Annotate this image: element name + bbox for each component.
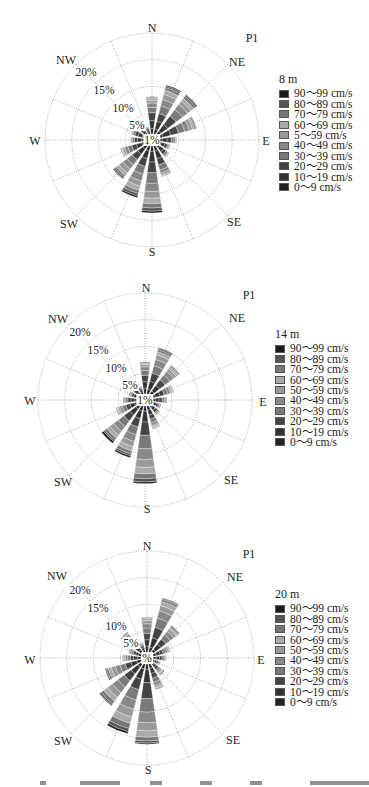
center-label: 1% xyxy=(143,134,160,146)
legend-swatch xyxy=(275,615,285,623)
compass-label-n: N xyxy=(143,539,152,554)
ring-label-10: 10% xyxy=(111,102,134,114)
compass-label-ne: NE xyxy=(229,55,245,70)
compass-label-n: N xyxy=(148,21,157,36)
compass-label-sw: SW xyxy=(54,734,72,749)
compass-label-se: SE xyxy=(224,473,238,488)
compass-label-nw: NW xyxy=(48,312,68,327)
legend-swatch xyxy=(279,110,289,118)
legend-swatch xyxy=(275,428,285,436)
station-label: P1 xyxy=(243,547,256,562)
legend-swatch xyxy=(275,646,285,654)
ring-label-5: 5% xyxy=(121,379,138,391)
legend-swatch xyxy=(279,100,289,108)
compass-label-se: SE xyxy=(227,215,241,230)
ring-label-10: 10% xyxy=(104,362,127,374)
rose-panel-20m: N NE E SE S SW W NW 20% 15% 10% 5% % P1 … xyxy=(0,530,369,778)
ring-label-5: 5% xyxy=(122,637,139,649)
legend-swatch xyxy=(275,667,285,675)
compass-label-se: SE xyxy=(226,733,240,748)
grid-spoke xyxy=(151,402,244,441)
legend-swatch xyxy=(275,657,285,665)
legend-swatch xyxy=(279,173,289,181)
ring-label-10: 10% xyxy=(104,620,127,632)
legend-swatch xyxy=(279,131,289,139)
ring-label-20: 20% xyxy=(74,66,97,78)
compass-label-sw: SW xyxy=(60,217,78,232)
compass-label-e: E xyxy=(262,134,269,149)
center-label: % xyxy=(141,652,153,664)
legend-swatch xyxy=(275,417,285,425)
legend-title: 20 m xyxy=(275,589,349,600)
legend-label: 0～9 cm/s xyxy=(290,437,337,448)
compass-label-sw: SW xyxy=(54,475,72,490)
legend-item: 0～9 cm/s xyxy=(275,437,349,447)
legend-swatch xyxy=(279,162,289,170)
legend-swatch xyxy=(275,407,285,415)
grid-spoke xyxy=(153,660,246,699)
legend-swatch xyxy=(279,183,289,191)
legend-title: 14 m xyxy=(275,329,349,340)
legend-swatch xyxy=(279,90,289,98)
compass-label-e: E xyxy=(259,395,266,410)
legend-label: 0～9 cm/s xyxy=(290,697,337,708)
legend-swatch xyxy=(279,121,289,129)
compass-label-s: S xyxy=(149,245,156,260)
compass-label-ne: NE xyxy=(229,311,245,326)
compass-label-nw: NW xyxy=(47,569,67,584)
legend-swatch xyxy=(275,698,285,706)
station-label: P1 xyxy=(243,288,256,303)
legend-swatch xyxy=(275,345,285,353)
legend-swatch xyxy=(275,688,285,696)
ring-label-15: 15% xyxy=(92,84,115,96)
legend-swatch xyxy=(275,636,285,644)
grid-spoke xyxy=(158,142,251,181)
compass-label-w: W xyxy=(29,134,40,149)
compass-label-nw: NW xyxy=(56,53,76,68)
legend-swatch xyxy=(279,152,289,160)
legend-swatch xyxy=(275,438,285,446)
rose-panel-14m: N NE E SE S SW W NW 20% 15% 10% 5% 1% P1… xyxy=(0,262,369,530)
rose-panel-8m: N NE E SE S SW W NW 20% 15% 10% 5% 1% P1… xyxy=(0,0,369,262)
compass-label-e: E xyxy=(257,653,264,668)
legend-14m: 14 m 90～99 cm/s80～89 cm/s70～79 cm/s60～69… xyxy=(275,329,349,447)
compass-label-ne: NE xyxy=(227,570,243,585)
compass-label-s: S xyxy=(145,763,152,778)
legend-item: 0～9 cm/s xyxy=(275,697,349,707)
compass-label-n: N xyxy=(142,281,151,296)
center-label: 1% xyxy=(136,394,153,406)
cropped-caption-strip xyxy=(0,778,369,787)
legend-item: 0～9 cm/s xyxy=(279,182,353,192)
ring-label-15: 15% xyxy=(86,602,109,614)
compass-label-s: S xyxy=(144,502,151,517)
legend-swatch xyxy=(279,142,289,150)
legend-swatch xyxy=(275,625,285,633)
legend-swatch xyxy=(275,376,285,384)
compass-label-w: W xyxy=(24,394,35,409)
ring-label-20: 20% xyxy=(68,584,91,596)
ring-label-20: 20% xyxy=(68,326,91,338)
ring-label-5: 5% xyxy=(128,119,145,131)
legend-swatch xyxy=(275,677,285,685)
legend-swatch xyxy=(275,605,285,613)
legend-swatch xyxy=(275,355,285,363)
legend-8m: 8 m 90～99 cm/s80～89 cm/s70～79 cm/s60～69 … xyxy=(279,74,353,192)
legend-title: 8 m xyxy=(279,74,353,85)
legend-swatch xyxy=(275,365,285,373)
station-label: P1 xyxy=(246,31,259,46)
legend-label: 0～9 cm/s xyxy=(294,182,341,193)
legend-swatch xyxy=(275,386,285,394)
legend-20m: 20 m 90～99 cm/s80～89 cm/s70～79 cm/s60～69… xyxy=(275,589,349,707)
grid-spoke xyxy=(149,404,220,475)
compass-label-w: W xyxy=(24,653,35,668)
legend-swatch xyxy=(275,397,285,405)
ring-label-15: 15% xyxy=(86,344,109,356)
